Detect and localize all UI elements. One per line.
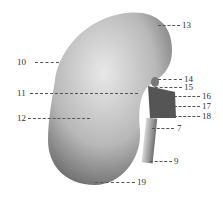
leader-17 [174,106,200,107]
label-9: 9 [174,157,179,166]
leader-11 [30,93,138,94]
leader-9 [150,161,172,162]
leader-15 [150,87,182,88]
leader-10 [35,62,59,63]
label-10: 10 [17,58,26,67]
leader-13 [158,25,180,26]
leader-7 [152,128,174,129]
label-12: 12 [17,114,26,123]
label-17: 17 [202,102,211,111]
leader-16 [174,96,200,97]
label-18: 18 [202,112,211,121]
leader-14 [158,79,182,80]
label-16: 16 [202,92,211,101]
label-11: 11 [17,89,26,98]
leader-18 [174,116,200,117]
label-15: 15 [184,83,193,92]
label-7: 7 [177,124,182,133]
leader-12 [28,118,90,119]
label-13: 13 [182,21,191,30]
label-19: 19 [137,178,146,187]
leader-19 [95,182,135,183]
kidney-figure: 13 10 14 15 11 16 17 12 18 7 9 19 [0,0,223,197]
